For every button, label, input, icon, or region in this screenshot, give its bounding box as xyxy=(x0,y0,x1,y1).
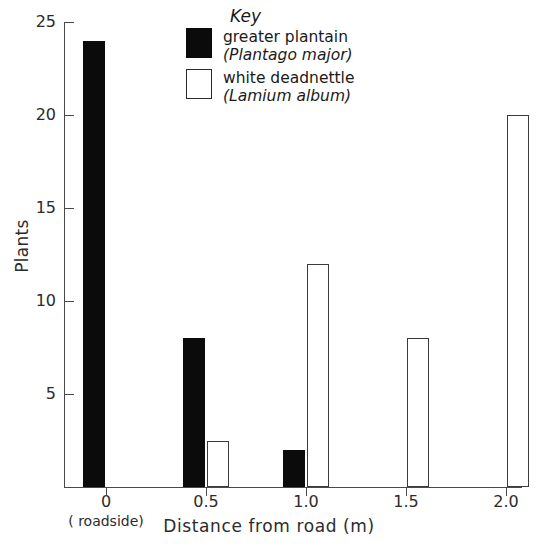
x-tick-label: 1.5 xyxy=(376,492,436,511)
bar xyxy=(507,115,529,487)
legend-item-label: greater plantain (Plantago major) xyxy=(223,28,353,65)
open-square-icon xyxy=(186,69,212,99)
x-axis-title: Distance from road (m) xyxy=(0,516,538,536)
y-tick-label: 5 xyxy=(10,386,56,402)
filled-square-icon xyxy=(186,28,212,58)
x-tick-label: 0.5 xyxy=(176,492,236,511)
y-tick-label: 15 xyxy=(10,200,56,216)
bar xyxy=(407,338,429,487)
y-tick-mark xyxy=(65,394,74,395)
bar xyxy=(83,41,105,487)
x-axis-line xyxy=(64,487,522,488)
y-axis-line xyxy=(64,22,65,488)
y-tick-label: 20 xyxy=(10,107,56,123)
x-tick-label: 0 xyxy=(76,492,136,511)
legend-item-greater-plantain: greater plantain (Plantago major) xyxy=(186,28,416,65)
bar-chart: Plants 510152025 00.51.01.52.0 ( roadsid… xyxy=(0,0,538,551)
bar xyxy=(283,450,305,487)
bar xyxy=(307,264,329,487)
y-tick-mark xyxy=(65,115,74,116)
legend-item-label: white deadnettle (Lamium album) xyxy=(223,69,354,106)
y-axis-title: Plants xyxy=(12,206,32,286)
legend: Key greater plantain (Plantago major) wh… xyxy=(186,6,416,109)
legend-latin-name: (Lamium album) xyxy=(223,87,351,105)
bar xyxy=(183,338,205,487)
legend-item-white-deadnettle: white deadnettle (Lamium album) xyxy=(186,69,416,106)
y-tick-mark xyxy=(65,301,74,302)
legend-title: Key xyxy=(230,6,416,26)
bar xyxy=(207,441,229,488)
y-tick-mark xyxy=(65,208,74,209)
legend-common-name: greater plantain xyxy=(223,28,348,46)
y-tick-label: 10 xyxy=(10,293,56,309)
x-tick-label: 2.0 xyxy=(476,492,536,511)
y-tick-label: 25 xyxy=(10,14,56,30)
legend-latin-name: (Plantago major) xyxy=(223,46,353,64)
x-tick-label: 1.0 xyxy=(276,492,336,511)
y-tick-mark xyxy=(65,22,74,23)
legend-common-name: white deadnettle xyxy=(223,69,354,87)
